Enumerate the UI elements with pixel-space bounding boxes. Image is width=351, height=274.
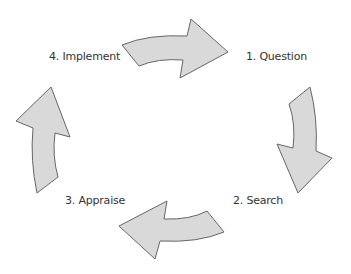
arrow-question-to-search [277, 87, 332, 193]
step-label-question: 1. Question [246, 50, 307, 63]
step-label-search: 2. Search [233, 194, 283, 207]
step-label-appraise: 3. Appraise [65, 194, 125, 207]
arrow-implement-to-question [122, 19, 228, 78]
arrow-appraise-to-implement [16, 87, 70, 193]
cycle-diagram: 1. Question 2. Search 3. Appraise 4. Imp… [0, 0, 351, 274]
arrows-layer [0, 0, 351, 274]
arrow-search-to-appraise [119, 201, 224, 259]
step-label-implement: 4. Implement [49, 50, 120, 63]
